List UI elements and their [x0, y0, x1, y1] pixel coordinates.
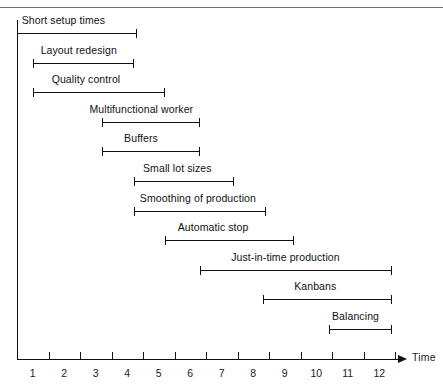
task-bar-label: Just-in-time production: [231, 251, 340, 263]
task-bar-end-cap: [293, 236, 294, 245]
x-axis-title: Time: [412, 351, 436, 363]
x-axis-tick-label: 2: [61, 367, 67, 379]
task-bar-end-cap: [265, 207, 266, 216]
task-bar-line: [263, 299, 392, 300]
y-axis-line: [17, 20, 18, 360]
task-bar: [263, 295, 392, 304]
task-bar: [33, 59, 134, 68]
x-axis-tick-label: 11: [342, 367, 353, 379]
x-axis-tick: [112, 352, 113, 360]
task-bar-line: [102, 122, 200, 123]
x-axis-tick: [269, 352, 270, 360]
x-axis-tick-label: 9: [282, 367, 288, 379]
x-axis-tick-label: 3: [93, 367, 99, 379]
task-bar-label: Balancing: [332, 310, 379, 322]
task-bar: [200, 266, 392, 275]
page-top-rule: [0, 7, 443, 8]
task-bar: [329, 325, 392, 334]
task-bar-line: [33, 63, 134, 64]
x-axis-tick: [332, 352, 333, 360]
task-bar-line: [200, 270, 392, 271]
task-bar-end-cap: [391, 295, 392, 304]
x-axis-arrow-icon: [398, 355, 407, 363]
task-bar-end-cap: [199, 147, 200, 156]
x-axis-tick: [175, 352, 176, 360]
task-bar-end-cap: [199, 118, 200, 127]
task-bar: [17, 29, 137, 38]
x-axis-tick: [206, 352, 207, 360]
x-axis-tick: [301, 352, 302, 360]
x-axis-tick-label: 5: [156, 367, 162, 379]
task-bar-label: Automatic stop: [178, 221, 249, 233]
task-bar-end-cap: [136, 29, 137, 38]
task-bar-label: Small lot sizes: [143, 162, 212, 174]
task-bar-line: [134, 181, 235, 182]
x-axis-tick-label: 10: [310, 367, 322, 379]
x-axis-tick-label: 12: [373, 367, 385, 379]
task-bar: [134, 207, 266, 216]
x-axis-tick: [364, 352, 365, 360]
x-axis-tick: [143, 352, 144, 360]
task-bar-label: Kanbans: [294, 280, 336, 292]
x-axis-tick-label: 7: [219, 367, 225, 379]
x-axis-tick-label: 6: [187, 367, 193, 379]
x-axis-tick: [80, 352, 81, 360]
task-bar-line: [134, 211, 266, 212]
gantt-chart: Time 123456789101112 Short setup timesLa…: [0, 0, 443, 388]
task-bar-line: [165, 240, 294, 241]
task-bar-line: [33, 92, 165, 93]
task-bar-label: Layout redesign: [41, 44, 117, 56]
x-axis-line: [17, 359, 402, 360]
task-bar-label: Multifunctional worker: [89, 103, 193, 115]
task-bar-label: Quality control: [52, 73, 121, 85]
x-axis-tick: [395, 352, 396, 360]
task-bar-line: [329, 329, 392, 330]
task-bar-label: Smoothing of production: [140, 192, 256, 204]
task-bar: [33, 88, 165, 97]
task-bar-end-cap: [391, 325, 392, 334]
task-bar-end-cap: [133, 59, 134, 68]
task-bar-end-cap: [233, 177, 234, 186]
x-axis-tick: [49, 352, 50, 360]
task-bar-label: Buffers: [124, 132, 158, 144]
x-axis-tick-label: 1: [30, 367, 36, 379]
task-bar: [102, 147, 200, 156]
x-axis-tick: [238, 352, 239, 360]
task-bar: [102, 118, 200, 127]
task-bar-end-cap: [391, 266, 392, 275]
task-bar-end-cap: [164, 88, 165, 97]
task-bar-line: [17, 33, 137, 34]
x-axis-tick: [17, 352, 18, 360]
task-bar: [165, 236, 294, 245]
task-bar: [134, 177, 235, 186]
task-bar-label: Short setup times: [22, 14, 105, 26]
x-axis-tick-label: 8: [250, 367, 256, 379]
x-axis-tick-label: 4: [124, 367, 130, 379]
task-bar-line: [102, 151, 200, 152]
